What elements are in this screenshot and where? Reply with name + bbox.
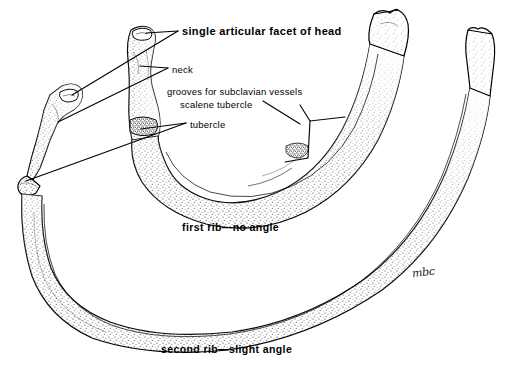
label-single-articular-facet-of-head: single articular facet of head [182, 26, 342, 37]
label-scalene-tubercle: scalene tubercle [180, 100, 252, 110]
label-neck: neck [172, 65, 193, 75]
caption-second-rib: second rib—slight angle [161, 344, 292, 355]
artist-signature: mbc [411, 265, 435, 281]
rib-illustration [0, 0, 514, 365]
label-tubercle: tubercle [190, 120, 225, 130]
rib-anatomy-figure: single articular facet of head neck groo… [0, 0, 514, 365]
caption-first-rib: first rib—no angle [182, 222, 279, 233]
label-grooves-for-subclavian-vessels: grooves for subclavian vessels [167, 87, 302, 97]
